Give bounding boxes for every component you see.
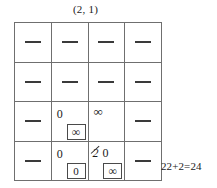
grid-cell-r3c3[interactable]: ∞ (88, 102, 125, 142)
table-row: 0 ∞ ∞ (15, 102, 162, 142)
grid-cell-r4c1[interactable] (15, 141, 52, 181)
dash-mark (52, 23, 88, 62)
dash-mark (89, 63, 125, 102)
grid-cell-r4c3[interactable]: 20 ∞ (88, 141, 125, 181)
grid-cell-r3c1[interactable] (15, 102, 52, 142)
cell-subvalue-box: ∞ (103, 163, 122, 179)
cell-revised-value: 20 (92, 146, 109, 160)
dash-mark (125, 23, 161, 62)
figure-caption: (2, 1) (14, 3, 157, 16)
dash-mark (125, 63, 161, 102)
grid-cell-r2c3[interactable] (88, 62, 125, 102)
table-row (15, 23, 162, 63)
cell-subvalue-box: ∞ (67, 124, 86, 140)
table-row (15, 62, 162, 102)
struck-out-value: 2 (92, 146, 100, 160)
arithmetic-note: 22+2=24 (161, 160, 202, 173)
dash-mark (125, 102, 161, 141)
dash-mark (125, 142, 161, 181)
grid-cell-r1c3[interactable] (88, 23, 125, 63)
grid-cell-r2c2[interactable] (51, 62, 88, 102)
grid-cell-r3c2[interactable]: 0 ∞ (51, 102, 88, 142)
cell-value: 0 (103, 146, 109, 160)
grid-cell-r1c2[interactable] (51, 23, 88, 63)
grid-cell-r2c1[interactable] (15, 62, 52, 102)
grid-cell-r1c1[interactable] (15, 23, 52, 63)
cell-subvalue-box: 0 (67, 163, 86, 179)
cell-value: ∞ (94, 105, 103, 118)
dash-mark (15, 63, 51, 102)
dash-mark (15, 142, 51, 181)
table-row: 0 0 20 ∞ (15, 141, 162, 181)
dash-mark (89, 23, 125, 62)
grid-cell-r1c4[interactable] (125, 23, 162, 63)
grid-cell-r4c2[interactable]: 0 0 (51, 141, 88, 181)
grid-cell-r4c4[interactable] (125, 141, 162, 181)
dash-mark (52, 63, 88, 102)
grid-figure: (2, 1) (0, 0, 217, 188)
grid-table: 0 ∞ ∞ 0 0 (14, 22, 162, 181)
cell-value: 0 (57, 147, 63, 161)
dash-mark (15, 102, 51, 141)
cell-value: 0 (57, 107, 63, 121)
grid-cell-r3c4[interactable] (125, 102, 162, 142)
grid-cell-r2c4[interactable] (125, 62, 162, 102)
dash-mark (15, 23, 51, 62)
